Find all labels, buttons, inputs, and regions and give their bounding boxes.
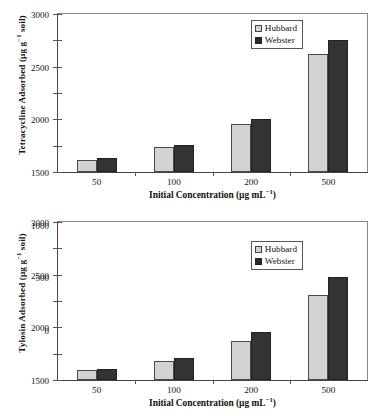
y-axis-tick-inner <box>58 14 62 15</box>
y-axis-title-exponent: −1 <box>15 34 22 41</box>
legend-label-hubbard: Hubbard <box>265 244 297 256</box>
legend-tylosin: Hubbard Webster <box>251 241 303 270</box>
x-axis-tick-label: 100 <box>167 177 181 187</box>
x-axis-title-tail: ) <box>273 398 276 408</box>
y-axis-tick-inner <box>58 301 62 302</box>
y-axis-tick-inner <box>58 327 62 328</box>
plot-area-tetracycline: 05001000150020002500300050100200500 Hubb… <box>57 13 368 173</box>
y-axis-tick-inner <box>58 40 62 41</box>
y-axis-tick-inner <box>58 172 62 173</box>
x-axis-tick-label: 50 <box>92 177 101 187</box>
legend-swatch-webster-icon <box>255 37 262 44</box>
legend-label-webster: Webster <box>265 256 295 268</box>
x-axis-tick-label: 50 <box>92 385 101 395</box>
x-axis-title-main: Initial Concentration (µg mL <box>149 398 266 408</box>
bar-webster-200 <box>251 332 271 380</box>
x-axis-tick-label: 200 <box>244 177 258 187</box>
y-axis-tick-label: 1500 <box>15 168 49 178</box>
bar-webster-50 <box>97 369 117 380</box>
y-axis-tick-inner <box>58 222 62 223</box>
legend-label-hubbard: Hubbard <box>265 23 297 35</box>
legend-swatch-webster-icon <box>255 258 262 265</box>
legend-swatch-hubbard-icon <box>255 246 262 253</box>
bar-webster-500 <box>328 40 348 172</box>
bar-hubbard-200 <box>231 341 251 380</box>
bar-webster-100 <box>174 145 194 172</box>
bar-webster-50 <box>97 158 117 172</box>
bar-hubbard-200 <box>231 124 251 172</box>
bar-hubbard-500 <box>308 295 328 380</box>
y-axis-tick-label: 2500 <box>15 271 49 281</box>
bar-hubbard-100 <box>154 361 174 380</box>
y-axis-title-main: Tetracycline Adsorbed (µg g <box>17 42 27 155</box>
x-axis-title-tail: ) <box>273 190 276 200</box>
y-axis-tick-inner <box>58 248 62 249</box>
x-axis-title-tetracycline: Initial Concentration (µg mL−1) <box>57 190 368 200</box>
x-axis-tick <box>290 172 291 176</box>
y-axis-tick-inner <box>58 119 62 120</box>
legend-item-hubbard: Hubbard <box>255 244 297 256</box>
y-axis-tick-inner <box>58 146 62 147</box>
x-axis-title-tylosin: Initial Concentration (µg mL−1) <box>57 398 368 408</box>
figure-two-panel-bar-charts: Tetracycline Adsorbed (µg g−1 soil) 0500… <box>0 0 378 416</box>
legend-swatch-hubbard-icon <box>255 25 262 32</box>
bar-webster-200 <box>251 119 271 172</box>
x-axis-tick <box>290 380 291 384</box>
x-axis-tick-label: 500 <box>321 177 335 187</box>
bar-hubbard-50 <box>77 370 97 380</box>
y-axis-tick-inner <box>58 93 62 94</box>
x-axis-tick <box>135 380 136 384</box>
bar-hubbard-100 <box>154 147 174 172</box>
x-axis-title-exponent: −1 <box>266 396 273 403</box>
legend-label-webster: Webster <box>265 35 295 47</box>
legend-item-webster: Webster <box>255 256 297 268</box>
y-axis-title-exponent: −1 <box>15 253 22 260</box>
y-axis-tick-label: 2000 <box>15 115 49 125</box>
x-axis-tick-label: 200 <box>244 385 258 395</box>
y-axis-tick-label: 1500 <box>15 376 49 386</box>
bar-webster-100 <box>174 358 194 380</box>
y-axis-title-tetracycline: Tetracycline Adsorbed (µg g−1 soil) <box>17 0 27 170</box>
y-axis-tick-inner <box>58 67 62 68</box>
bar-webster-500 <box>328 277 348 380</box>
y-axis-tick-inner <box>58 275 62 276</box>
y-axis-tick-label: 2500 <box>15 63 49 73</box>
x-axis-tick-label: 100 <box>167 385 181 395</box>
bar-hubbard-500 <box>308 54 328 172</box>
x-axis-title-exponent: −1 <box>266 188 273 195</box>
y-axis-tick-label: 3000 <box>15 10 49 20</box>
y-axis-title-tail: soil) <box>17 233 27 252</box>
y-axis-tick-inner <box>58 354 62 355</box>
bar-hubbard-50 <box>77 160 97 172</box>
x-axis-tick <box>213 172 214 176</box>
x-axis-title-main: Initial Concentration (µg mL <box>149 190 266 200</box>
plot-area-tylosin: 05001000150020002500300050100200500 Hubb… <box>57 221 368 381</box>
legend-tetracycline: Hubbard Webster <box>251 20 303 49</box>
legend-item-webster: Webster <box>255 35 297 47</box>
panel-tetracycline: Tetracycline Adsorbed (µg g−1 soil) 0500… <box>0 0 378 208</box>
y-axis-title-tylosin: Tylosin Adsorbed (µg g−1 soil) <box>17 208 27 378</box>
y-axis-tick-label: 3000 <box>15 218 49 228</box>
panel-tylosin: Tylosin Adsorbed (µg g−1 soil) 050010001… <box>0 208 378 416</box>
y-axis-tick-inner <box>58 380 62 381</box>
x-axis-tick-label: 500 <box>321 385 335 395</box>
legend-item-hubbard: Hubbard <box>255 23 297 35</box>
x-axis-tick <box>135 172 136 176</box>
y-axis-tick-label: 2000 <box>15 323 49 333</box>
x-axis-tick <box>213 380 214 384</box>
